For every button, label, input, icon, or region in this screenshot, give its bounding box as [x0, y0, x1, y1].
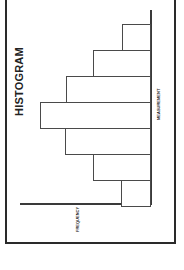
histogram-bar: [122, 24, 151, 51]
histogram-bar: [65, 128, 151, 155]
histogram-bar: [93, 154, 151, 181]
x-axis-label: MEASUREMENT: [156, 89, 161, 120]
y-axis-label: FREQUENCY: [75, 207, 80, 232]
histogram-bar: [66, 76, 151, 103]
chart-title: HISTOGRAM: [13, 47, 25, 116]
histogram-bar: [40, 102, 151, 129]
histogram-bar: [93, 50, 151, 77]
histogram-bar: [121, 180, 151, 207]
